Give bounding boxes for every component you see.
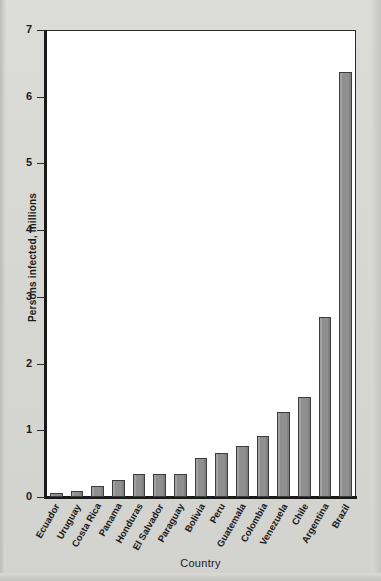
- bar-guatemala: [236, 446, 249, 497]
- bar-chile: [298, 397, 311, 497]
- page-edge-left: [0, 0, 6, 581]
- x-axis-label-chile: Chile: [290, 502, 310, 527]
- bar-brazil: [339, 72, 352, 497]
- y-axis-tick-label: 0: [12, 491, 32, 502]
- x-axis-label-brazil: Brazil: [330, 502, 351, 529]
- y-axis-tick-label: 6: [12, 91, 32, 102]
- bar-series: [46, 30, 356, 497]
- y-axis-title: Persons infected, millions: [27, 163, 38, 353]
- y-axis-tick-label: 1: [12, 424, 32, 435]
- y-axis-tick: [37, 230, 45, 231]
- bar-peru: [215, 453, 228, 497]
- bar-el-salvador: [153, 474, 166, 497]
- bar-uruguay: [71, 491, 84, 497]
- bar-paraguay: [174, 474, 187, 497]
- x-axis-title: Country: [45, 557, 356, 569]
- page-edge-bottom: [0, 573, 381, 581]
- y-axis-tick: [37, 364, 45, 365]
- y-axis-tick-label: 2: [12, 358, 32, 369]
- page-edge-right: [371, 0, 381, 581]
- bar-venezuela: [277, 412, 290, 497]
- bar-honduras: [133, 474, 146, 497]
- y-axis-tick: [37, 97, 45, 98]
- figure-canvas: 01234567 Persons infected, millions Ecua…: [0, 0, 381, 581]
- bar-panama: [112, 480, 125, 497]
- bar-ecuador: [50, 493, 63, 497]
- y-axis-tick: [37, 497, 45, 498]
- y-axis-tick: [37, 430, 45, 431]
- bar-colombia: [257, 436, 270, 497]
- y-axis-tick: [37, 297, 45, 298]
- x-axis-tick-labels: EcuadorUruguayCosta RicaPanamaHondurasEl…: [46, 500, 356, 562]
- y-axis-tick: [37, 30, 45, 31]
- bar-argentina: [319, 317, 332, 497]
- y-axis-tick: [37, 163, 45, 164]
- bar-costa-rica: [91, 486, 104, 497]
- x-axis-label-peru: Peru: [208, 502, 227, 525]
- y-axis-tick-label: 7: [12, 24, 32, 35]
- bar-bolivia: [195, 458, 208, 497]
